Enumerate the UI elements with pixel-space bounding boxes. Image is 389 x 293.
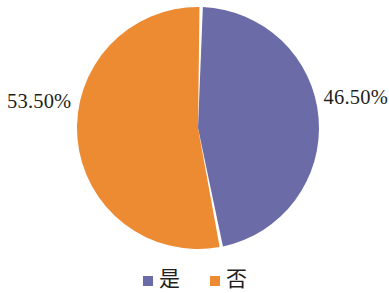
legend-swatch-icon-fou	[210, 276, 220, 286]
legend-item-shi[interactable]: 是	[143, 269, 180, 290]
chart-legend: 是 否	[0, 266, 389, 293]
pie-slice-shi[interactable]	[198, 7, 319, 246]
pie-slices	[77, 7, 319, 249]
pie-chart: 46.50% 53.50% 是 否	[0, 0, 389, 293]
legend-item-fou[interactable]: 否	[210, 269, 247, 290]
legend-label-shi: 是	[159, 269, 180, 290]
data-label-left-percent: 53.50%	[7, 91, 71, 112]
pie-chart-canvas	[0, 0, 389, 293]
legend-label-fou: 否	[226, 269, 247, 290]
legend-swatch-icon-shi	[143, 276, 153, 286]
data-label-right-percent: 46.50%	[324, 87, 388, 108]
